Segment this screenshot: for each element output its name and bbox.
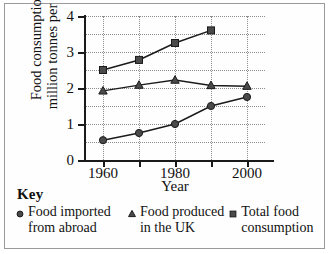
- legend-label-line1: Food produced: [140, 204, 224, 220]
- legend-entry: Total foodconsumption: [227, 204, 314, 236]
- legend-marker-circle-icon: [14, 204, 28, 220]
- y-axis-tick-label: 4: [52, 9, 74, 24]
- gridline-vertical: [175, 16, 176, 160]
- x-axis-tick: [139, 160, 141, 167]
- y-axis-tick: [78, 160, 85, 162]
- x-axis-tick: [211, 160, 213, 167]
- legend-label: Total foodconsumption: [241, 204, 313, 236]
- chart-figure: Food consumption / million tonnes per ye…: [0, 0, 330, 254]
- x-axis-tick-label: 1960: [78, 166, 128, 181]
- legend-marker-square-icon: [227, 204, 241, 220]
- y-axis-tick-label: 1: [52, 117, 74, 132]
- legend-label: Food importedfrom abroad: [28, 204, 111, 236]
- x-axis-tick-label: 2000: [222, 166, 272, 181]
- legend-entry: Food importedfrom abroad: [14, 204, 126, 236]
- legend-entries: Food importedfrom abroadFood producedin …: [14, 204, 314, 236]
- legend-title: Key: [17, 186, 314, 203]
- legend-entry: Food producedin the UK: [126, 204, 227, 236]
- y-axis-tick: [78, 16, 85, 18]
- legend-label: Food producedin the UK: [140, 204, 224, 236]
- x-axis-line: [84, 160, 274, 162]
- gridline-vertical: [211, 16, 212, 160]
- legend-marker-triangle-icon: [126, 204, 140, 220]
- legend-label-line2: consumption: [241, 220, 313, 236]
- gridline-vertical: [139, 16, 140, 160]
- y-axis-tick-label: 0: [52, 153, 74, 168]
- y-axis-label-line1: Food consumption /: [28, 0, 44, 122]
- legend-label-line2: in the UK: [140, 220, 224, 236]
- legend-label-line1: Total food: [241, 204, 313, 220]
- x-axis-tick-label: 1980: [150, 166, 200, 181]
- y-axis-tick: [78, 88, 85, 90]
- y-axis-tick-label: 3: [52, 45, 74, 60]
- gridline-vertical: [103, 16, 104, 160]
- legend-label-line2: from abroad: [28, 220, 111, 236]
- plot-area: [85, 16, 265, 160]
- y-axis-tick-label: 2: [52, 81, 74, 96]
- chart-legend: Key Food importedfrom abroadFood produce…: [14, 186, 314, 236]
- gridline-vertical: [247, 16, 248, 160]
- legend-label-line1: Food imported: [28, 204, 111, 220]
- y-axis-tick: [78, 124, 85, 126]
- y-axis-tick: [78, 52, 85, 54]
